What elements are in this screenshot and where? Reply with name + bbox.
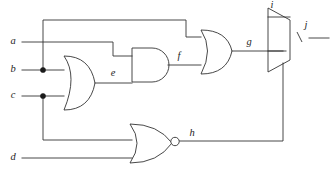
label-j: j (303, 19, 308, 30)
nor-inversion-bubble-icon (171, 137, 179, 145)
junction-dot-c (40, 93, 45, 98)
circuit-diagram: a b c d e f g h i j (0, 0, 331, 175)
label-c: c (11, 89, 16, 100)
junction-dot-b (40, 67, 45, 72)
wire-c-branch-bottom (43, 96, 132, 140)
or-gate-bc (64, 56, 95, 110)
nor-gate-cd (130, 124, 172, 163)
bus-width-slash-icon (297, 32, 302, 42)
label-g: g (246, 36, 251, 47)
wire-input-a (22, 42, 132, 56)
and-gate-ae (132, 48, 169, 82)
label-h: h (189, 127, 194, 138)
label-d: d (10, 151, 16, 162)
wire-b-branch-top (43, 20, 201, 70)
label-a: a (10, 35, 15, 46)
mux-body (268, 8, 290, 72)
label-b: b (10, 63, 15, 74)
or-gate-fb (201, 30, 232, 74)
circuit-canvas: a b c d e f g h i j (0, 0, 331, 175)
label-f: f (178, 50, 183, 61)
label-e: e (111, 67, 116, 78)
label-i: i (271, 0, 274, 10)
